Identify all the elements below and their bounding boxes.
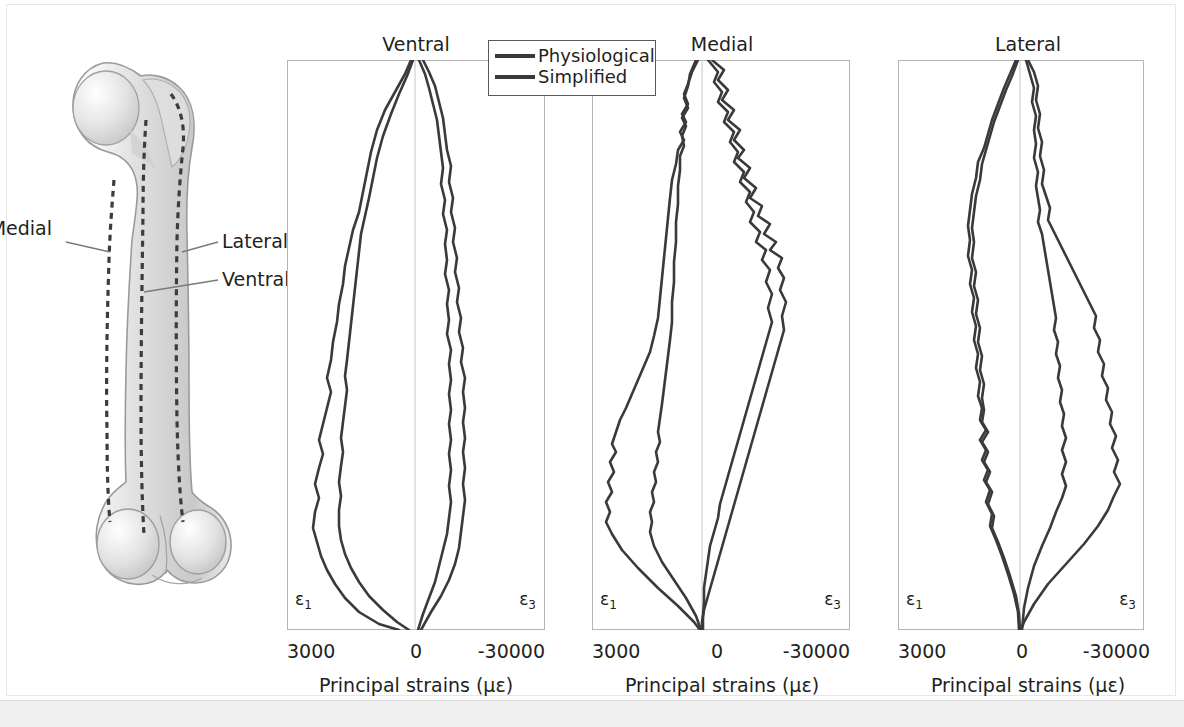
panel-title-medial: Medial bbox=[691, 33, 753, 55]
xtick-left-medial: 3000 bbox=[592, 640, 640, 662]
plot-panel-lateral bbox=[898, 60, 1144, 630]
medial-path bbox=[107, 180, 114, 522]
plot-panel-ventral bbox=[287, 60, 545, 630]
legend-swatch-simplified bbox=[495, 75, 535, 79]
epsilon3-symbol: ε bbox=[824, 589, 833, 609]
bone-label-ventral: Ventral bbox=[222, 268, 289, 290]
epsilon1-symbol: ε bbox=[906, 589, 915, 609]
legend: Physiological Simplified bbox=[488, 40, 656, 96]
epsilon1-symbol: ε bbox=[295, 589, 304, 609]
plot-panel-medial bbox=[592, 60, 850, 630]
bone-label-medial: Medial bbox=[0, 217, 52, 239]
epsilon3-label-ventral: ε3 bbox=[519, 589, 536, 612]
xtick-right-ventral: -30000 bbox=[478, 640, 545, 662]
xtick-right-medial: -30000 bbox=[783, 640, 850, 662]
bone-label-lateral: Lateral bbox=[222, 230, 288, 252]
xaxis-caption-ventral: Principal strains (με) bbox=[319, 674, 513, 696]
epsilon1-subscript: 1 bbox=[609, 598, 617, 612]
xtick-mid-ventral: 0 bbox=[410, 640, 422, 662]
epsilon1-label-lateral: ε1 bbox=[906, 589, 923, 612]
femur-body bbox=[73, 63, 231, 585]
xtick-right-lateral: -30000 bbox=[1083, 640, 1150, 662]
epsilon3-symbol: ε bbox=[519, 589, 528, 609]
epsilon1-symbol: ε bbox=[600, 589, 609, 609]
femur-illustration bbox=[40, 30, 270, 670]
epsilon1-subscript: 1 bbox=[304, 598, 312, 612]
bottom-strip bbox=[0, 700, 1184, 727]
legend-swatch-physiological bbox=[495, 54, 535, 58]
epsilon1-subscript: 1 bbox=[915, 598, 923, 612]
xaxis-caption-lateral: Principal strains (με) bbox=[931, 674, 1125, 696]
xtick-left-lateral: 3000 bbox=[898, 640, 946, 662]
epsilon3-label-lateral: ε3 bbox=[1119, 589, 1136, 612]
legend-item-physiological: Physiological bbox=[495, 45, 648, 66]
legend-label-simplified: Simplified bbox=[538, 68, 627, 86]
panel-title-lateral: Lateral bbox=[995, 33, 1061, 55]
epsilon1-label-ventral: ε1 bbox=[295, 589, 312, 612]
epsilon1-label-medial: ε1 bbox=[600, 589, 617, 612]
epsilon3-label-medial: ε3 bbox=[824, 589, 841, 612]
legend-label-physiological: Physiological bbox=[538, 47, 655, 65]
epsilon3-subscript: 3 bbox=[528, 598, 536, 612]
xaxis-caption-medial: Principal strains (με) bbox=[625, 674, 819, 696]
figure-root: Medial Lateral Ventral Ventral ε1 ε3 300… bbox=[0, 0, 1184, 727]
xtick-left-ventral: 3000 bbox=[287, 640, 335, 662]
xtick-mid-lateral: 0 bbox=[1016, 640, 1028, 662]
epsilon3-subscript: 3 bbox=[1128, 598, 1136, 612]
legend-item-simplified: Simplified bbox=[495, 66, 648, 87]
epsilon3-symbol: ε bbox=[1119, 589, 1128, 609]
epsilon3-subscript: 3 bbox=[833, 598, 841, 612]
panel-title-ventral: Ventral bbox=[382, 33, 449, 55]
xtick-mid-medial: 0 bbox=[711, 640, 723, 662]
